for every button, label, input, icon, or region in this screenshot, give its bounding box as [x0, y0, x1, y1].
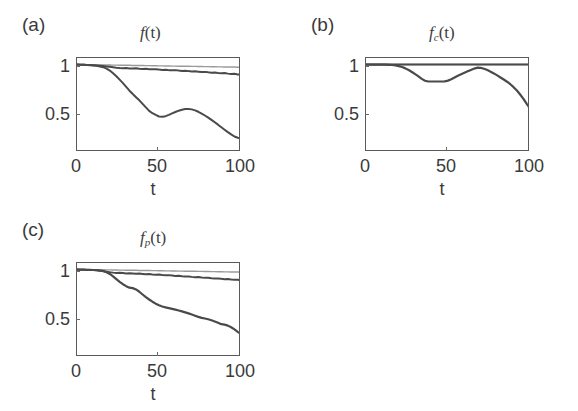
- panel-a-xtick-label-0: 0: [62, 156, 90, 177]
- panel-a-title-tail: (t): [145, 23, 161, 42]
- panel-b-xtick-label-50: 50: [430, 156, 462, 177]
- panel-c-ytick-label-05: 0.5: [22, 309, 70, 330]
- panel-b-title: fc(t): [429, 23, 455, 43]
- panel-a-ytick-1: [76, 66, 80, 67]
- panel-c: (c) fp(t) 1 0.5 0 50 100 t: [0, 205, 289, 411]
- figure-root: (a) f(t) 1 0.5 0 50 100 t (b) fc(t) 1: [0, 0, 578, 411]
- panel-a-plot-area: [76, 57, 240, 151]
- panel-b-ytick-label-05: 0.5: [311, 104, 359, 125]
- panel-b-xtick-label-0: 0: [351, 156, 379, 177]
- panel-a-ytick-label-1: 1: [40, 56, 70, 77]
- panel-a-xtick-50: [157, 147, 158, 151]
- panel-c-title-sub: p: [145, 236, 151, 248]
- panel-b-xaxis-label: t: [432, 179, 452, 200]
- panel-b-label: (b): [311, 14, 334, 36]
- panel-a-ytick-05: [76, 114, 80, 115]
- panel-c-xtick-50: [157, 352, 158, 356]
- panel-a-title: f(t): [140, 23, 161, 43]
- panel-a: (a) f(t) 1 0.5 0 50 100 t: [0, 0, 289, 206]
- panel-c-ytick-05: [76, 319, 80, 320]
- panel-c-title-tail: (t): [150, 228, 166, 247]
- panel-c-xtick-label-50: 50: [141, 361, 173, 382]
- panel-a-xaxis-label: t: [143, 179, 163, 200]
- panel-a-curves: [77, 58, 240, 151]
- panel-a-ytick-label-05: 0.5: [22, 104, 70, 125]
- series-dip-recover-decay: [366, 65, 529, 109]
- panel-b-title-tail: (t): [439, 23, 455, 42]
- panel-b-ytick-label-1: 1: [329, 56, 359, 77]
- series-fast-decay: [77, 65, 240, 139]
- panel-b-curves: [366, 58, 529, 151]
- panel-b-ytick-05: [365, 114, 369, 115]
- panel-b: (b) fc(t) 1 0.5 0 50 100 t: [289, 0, 578, 206]
- panel-b-xtick-50: [446, 147, 447, 151]
- panel-c-xaxis-label: t: [143, 384, 163, 405]
- panel-c-plot-area: [76, 262, 240, 356]
- panel-c-curves: [77, 263, 240, 356]
- panel-c-title: fp(t): [140, 228, 166, 248]
- panel-b-plot-area: [365, 57, 529, 151]
- panel-a-xtick-label-50: 50: [141, 156, 173, 177]
- panel-c-ytick-label-1: 1: [40, 261, 70, 282]
- panel-c-xtick-label-100: 100: [218, 361, 262, 382]
- panel-c-label: (c): [22, 219, 44, 241]
- panel-c-xtick-label-0: 0: [62, 361, 90, 382]
- panel-c-ytick-1: [76, 271, 80, 272]
- panel-b-title-sub: c: [434, 31, 439, 43]
- panel-b-xtick-label-100: 100: [507, 156, 551, 177]
- panel-b-ytick-1: [365, 66, 369, 67]
- panel-a-xtick-label-100: 100: [218, 156, 262, 177]
- panel-a-label: (a): [22, 14, 45, 36]
